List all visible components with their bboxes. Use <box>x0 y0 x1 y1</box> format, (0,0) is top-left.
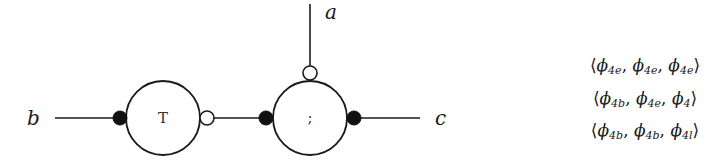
separator: , <box>658 55 669 75</box>
separator: , <box>660 120 671 140</box>
phi-symbol: ϕ <box>632 55 644 75</box>
tuple-row: ⟨ϕ4b, ϕ4b, ϕ4l⟩ <box>560 117 724 150</box>
tuple-row: ⟨ϕ4b, ϕ4e, ϕ4⟩ <box>560 85 724 118</box>
phi-symbol: ϕ <box>634 120 646 140</box>
filled-port-icon <box>259 111 273 125</box>
phi-subscript: 4b <box>611 97 625 110</box>
filled-port-icon <box>347 111 361 125</box>
close-angle-bracket: ⟩ <box>690 88 697 108</box>
separator: , <box>622 55 633 75</box>
node-seq-label: ; <box>307 109 312 127</box>
label-b: b <box>27 106 40 130</box>
tuple-row: ⟨ϕ4e, ϕ4e, ϕ4e⟩ <box>560 52 724 85</box>
label-c: c <box>435 106 446 130</box>
phi-symbol: ϕ <box>636 88 648 108</box>
phi-subscript: 4b <box>646 129 660 142</box>
close-angle-bracket: ⟩ <box>693 55 700 75</box>
phi-symbol: ϕ <box>672 88 684 108</box>
phi-symbol: ϕ <box>600 88 612 108</box>
open-port-icon <box>200 111 214 125</box>
phi-subscript: 4e <box>644 64 658 77</box>
separator: , <box>625 88 636 108</box>
separator: , <box>623 120 634 140</box>
phi-subscript: 4e <box>680 64 694 77</box>
open-angle-bracket: ⟨ <box>590 55 597 75</box>
phi-subscript: 4b <box>609 129 623 142</box>
phi-subscript: 4e <box>608 64 622 77</box>
close-angle-bracket: ⟩ <box>693 120 700 140</box>
label-a: a <box>325 0 337 24</box>
filled-port-icon <box>113 111 127 125</box>
phi-subscript: 4e <box>648 97 662 110</box>
open-port-icon <box>303 66 317 80</box>
phi-subscript: 4l <box>682 129 693 142</box>
separator: , <box>661 88 672 108</box>
node-T-label: T <box>158 109 168 127</box>
phi-symbol: ϕ <box>597 55 609 75</box>
tuple-list: ⟨ϕ4e, ϕ4e, ϕ4e⟩⟨ϕ4b, ϕ4e, ϕ4⟩⟨ϕ4b, ϕ4b, … <box>560 52 724 150</box>
phi-symbol: ϕ <box>597 120 609 140</box>
phi-symbol: ϕ <box>668 55 680 75</box>
phi-symbol: ϕ <box>670 120 682 140</box>
open-angle-bracket: ⟨ <box>593 88 600 108</box>
